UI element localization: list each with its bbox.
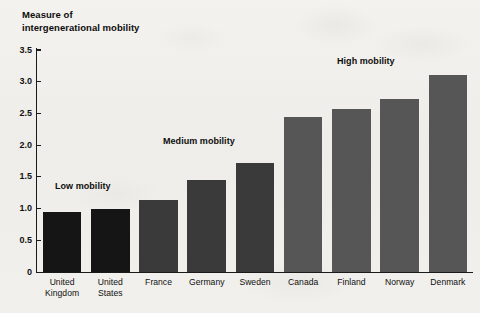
chart-figure: Measure of intergenerational mobility 00… — [0, 0, 480, 313]
bar — [429, 75, 468, 272]
bar — [187, 180, 226, 272]
bar — [43, 212, 82, 272]
y-axis-tick-label: 3.0 — [0, 77, 32, 86]
y-axis-tick-mark — [36, 145, 41, 146]
bar — [236, 163, 275, 272]
y-axis-tick-label-text: 1.5 — [6, 172, 32, 181]
y-axis-tick-label-text: 3.0 — [6, 77, 32, 86]
x-axis-line — [36, 272, 473, 273]
bar — [332, 109, 371, 272]
y-axis-tick-label: 0 — [0, 268, 32, 277]
y-axis-tick-label: 2.0 — [0, 141, 32, 150]
group-annotation-label: Medium mobility — [163, 136, 235, 146]
y-axis-tick-label: 1.0 — [0, 204, 32, 213]
y-axis-tick-label-text: 3.5 — [6, 46, 32, 55]
y-axis-tick-label: 2.5 — [0, 109, 32, 118]
y-axis-tick-label-text: 2.0 — [6, 141, 32, 150]
group-annotation-label: High mobility — [337, 56, 395, 66]
y-axis-tick-mark — [36, 81, 41, 82]
group-annotation-label: Low mobility — [55, 181, 111, 191]
y-axis-tick-mark — [36, 208, 41, 209]
y-axis-tick-label-text: 0 — [6, 268, 32, 277]
y-axis-tick-mark — [36, 176, 41, 177]
bar — [139, 200, 178, 272]
x-axis-category-label: Denmark — [420, 277, 476, 288]
bar — [91, 209, 130, 272]
plot-area: 00.51.01.52.02.53.03.5 United KingdomUni… — [0, 0, 480, 313]
y-axis-tick-label: 3.5 — [0, 46, 32, 55]
y-axis-tick-label: 1.5 — [0, 172, 32, 181]
y-axis-tick-mark — [36, 240, 41, 241]
bar — [284, 117, 323, 272]
y-axis-tick-mark — [36, 113, 41, 114]
y-axis-tick-label-text: 2.5 — [6, 109, 32, 118]
y-axis-tick-label-text: 1.0 — [6, 204, 32, 213]
y-axis-tick-label-text: 0.5 — [6, 236, 32, 245]
bar — [380, 99, 419, 272]
y-axis-tick-label: 0.5 — [0, 236, 32, 245]
y-axis-tick-mark — [36, 49, 41, 50]
